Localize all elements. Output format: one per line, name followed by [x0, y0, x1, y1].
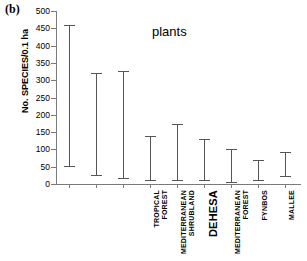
y-axis-tick: [51, 11, 56, 12]
y-axis-tick: [51, 184, 56, 185]
range-bar-cap-low: [145, 180, 156, 181]
range-bar-cap-high: [118, 71, 129, 72]
x-axis-tick: [96, 184, 97, 188]
panel-label: (b): [5, 2, 20, 17]
x-axis-category-label: DEHESA: [207, 190, 219, 261]
x-axis-category-label: MEDITERRANEAN SHRUBLAND: [180, 190, 196, 261]
figure-panel-b: (b) No. SPECIES/0.1 ha 50045040035030025…: [0, 0, 307, 261]
x-axis-tick: [177, 184, 178, 188]
x-axis-tick: [285, 184, 286, 188]
range-bar: [150, 136, 151, 182]
y-axis-tick: [51, 167, 56, 168]
range-bar-cap-high: [91, 73, 102, 74]
y-axis-tick: [51, 28, 56, 29]
x-axis-tick: [150, 184, 151, 188]
range-bar: [258, 160, 259, 181]
y-axis-tick: [51, 46, 56, 47]
range-bar: [285, 152, 286, 177]
range-bar-cap-low: [91, 175, 102, 176]
range-bar: [204, 139, 205, 181]
y-axis-tick: [51, 115, 56, 116]
y-axis-tick-label: 250: [24, 94, 50, 102]
y-axis-tick: [51, 80, 56, 81]
x-axis-tick: [204, 184, 205, 188]
y-axis-tick: [51, 149, 56, 150]
range-bar-cap-high: [64, 25, 75, 26]
range-bar-cap-low: [118, 178, 129, 179]
y-axis-tick-label: 500: [24, 7, 50, 15]
y-axis-tick-label: 200: [24, 111, 50, 119]
range-bar-cap-high: [199, 139, 210, 140]
y-axis-tick: [51, 98, 56, 99]
x-axis-tick: [123, 184, 124, 188]
x-axis-line: [56, 184, 301, 185]
y-axis-tick-label: 300: [24, 76, 50, 84]
range-bar-cap-low: [253, 180, 264, 181]
chart-title: plants: [152, 24, 187, 39]
x-axis-category-label: FYNBOS: [261, 190, 269, 261]
range-bar: [231, 149, 232, 183]
y-axis-tick: [51, 132, 56, 133]
y-axis-tick-label: 50: [24, 163, 50, 171]
range-bar-cap-high: [172, 124, 183, 125]
range-bar-cap-low: [199, 180, 210, 181]
range-bar-cap-low: [280, 176, 291, 177]
range-bar-cap-low: [64, 166, 75, 167]
range-bar-cap-low: [226, 182, 237, 183]
x-axis-category-label: MALLEE: [288, 190, 296, 261]
y-axis-tick-labels: 500450400350300250200150100500: [20, 0, 50, 261]
y-axis-tick-label: 0: [24, 180, 50, 188]
y-axis-tick-label: 150: [24, 128, 50, 136]
range-bar: [96, 73, 97, 176]
y-axis-tick-label: 350: [24, 59, 50, 67]
x-axis-tick: [231, 184, 232, 188]
x-axis-tick: [69, 184, 70, 188]
range-bar-cap-low: [172, 180, 183, 181]
range-bar-cap-high: [145, 136, 156, 137]
x-axis-category-label: MEDITERRANEAN FOREST: [234, 190, 250, 261]
x-axis-category-label: TROPICAL FOREST: [153, 190, 169, 261]
range-bar-cap-high: [226, 149, 237, 150]
y-axis-tick-label: 100: [24, 145, 50, 153]
x-axis-tick: [258, 184, 259, 188]
y-axis-tick-label: 450: [24, 24, 50, 32]
y-axis-tick-label: 400: [24, 42, 50, 50]
range-bar: [177, 124, 178, 181]
range-bar-cap-high: [280, 152, 291, 153]
range-bar-cap-high: [253, 160, 264, 161]
y-axis-tick: [51, 63, 56, 64]
range-bar: [69, 25, 70, 168]
range-bar: [123, 71, 124, 179]
